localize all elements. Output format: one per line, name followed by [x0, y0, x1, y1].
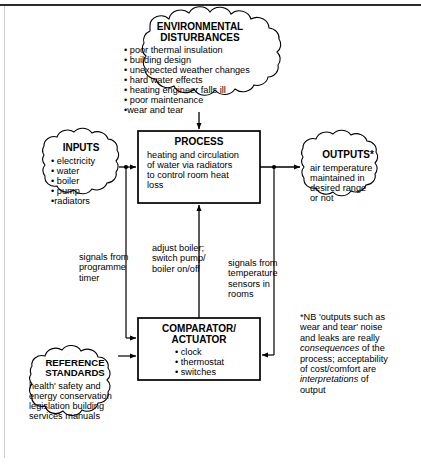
reference-body: health' safety and energy conservation l… — [29, 381, 121, 421]
footnote-italic-interpretations: interpretations — [300, 374, 358, 384]
list-item: • heating engineer falls ill — [124, 85, 276, 95]
list-item: • switches — [175, 367, 257, 377]
list-item: •radiators — [51, 196, 115, 206]
list-item: • electricity — [51, 156, 115, 166]
footnote-line-4: of the — [359, 343, 385, 353]
list-item: • boiler — [51, 176, 115, 186]
node-process: PROCESS heating and circulation of water… — [141, 137, 257, 190]
process-body: heating and circulation of water via rad… — [141, 150, 257, 190]
node-outputs: OUTPUTS* air temperature maintained in d… — [310, 150, 386, 203]
inputs-list: • electricity • water • boiler • pump •r… — [47, 156, 115, 206]
list-item: • thermostat — [175, 357, 257, 367]
label-programme-timer: signals from programme timer — [79, 252, 149, 283]
footnote-line-3: and leaks are really — [300, 333, 380, 343]
outputs-title: OUTPUTS* — [310, 150, 386, 161]
list-item: • clock — [175, 347, 257, 357]
footnote-line-8: output — [300, 385, 326, 395]
footnote-line-6: of cost/comfort are — [300, 364, 376, 374]
reference-title: REFERENCE STANDARDS — [29, 358, 121, 379]
footnote-italic-consequences: consequences — [300, 343, 359, 353]
inputs-title: INPUTS — [47, 143, 115, 154]
footnote: *NB 'outputs such as wear and tear' nois… — [300, 312, 416, 395]
process-title: PROCESS — [141, 137, 257, 148]
node-comparator: COMPARATOR/ ACTUATOR • clock • thermosta… — [141, 324, 257, 377]
outputs-body: air temperature maintained in desired ra… — [310, 163, 386, 203]
list-item: • unexpected weather changes — [124, 65, 276, 75]
list-item: •wear and tear — [124, 105, 276, 115]
diagram-canvas: ENVIRONMENTAL DISTURBANCES • poor therma… — [0, 0, 421, 466]
list-item: • poor thermal insulation — [124, 45, 276, 55]
list-item: • poor maintenance — [124, 95, 276, 105]
list-item: • water — [51, 166, 115, 176]
footnote-line-2: wear and tear' noise — [300, 322, 382, 332]
environmental-title: ENVIRONMENTAL DISTURBANCES — [124, 22, 276, 43]
footnote-line-1: *NB 'outputs such as — [300, 312, 385, 322]
footnote-line-5: process; acceptability — [300, 354, 388, 364]
node-reference: REFERENCE STANDARDS health' safety and e… — [29, 358, 121, 421]
label-temperature-sensors: signals from temperature sensors in room… — [228, 258, 296, 299]
comparator-title: COMPARATOR/ ACTUATOR — [141, 324, 257, 345]
footnote-line-7: of — [358, 374, 368, 384]
node-inputs: INPUTS • electricity • water • boiler • … — [47, 143, 115, 206]
label-adjust-boiler: adjust boiler; switch pump/ boiler on/of… — [152, 243, 222, 274]
list-item: • hard water effects — [124, 75, 276, 85]
environmental-list: • poor thermal insulation • building des… — [124, 45, 276, 115]
comparator-list: • clock • thermostat • switches — [141, 347, 257, 377]
list-item: • building design — [124, 55, 276, 65]
list-item: • pump — [51, 186, 115, 196]
node-environmental: ENVIRONMENTAL DISTURBANCES • poor therma… — [124, 22, 276, 115]
